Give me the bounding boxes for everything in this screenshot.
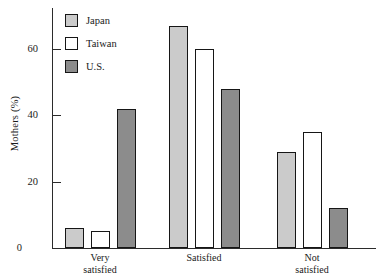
legend: JapanTaiwanU.S. <box>65 10 117 79</box>
y-axis-tick-text: 0 <box>0 243 52 253</box>
y-axis-tick-label: 20 <box>0 177 52 187</box>
bar-taiwan-not-satisfied <box>303 132 322 248</box>
y-axis-tick-label: 60 <box>0 44 52 54</box>
legend-label: Japan <box>86 15 110 26</box>
x-axis-line <box>52 248 376 249</box>
bar-us-not-satisfied <box>329 208 348 248</box>
x-axis-label-2: Not satisfied <box>267 252 357 275</box>
bar-us-satisfied <box>221 89 240 248</box>
y-axis-tick-text: 60 <box>12 44 52 54</box>
y-axis-tick-text: 20 <box>12 177 52 187</box>
legend-swatch-icon <box>65 37 78 50</box>
x-axis-label-0: Very satisfied <box>55 252 145 275</box>
legend-item-japan: Japan <box>65 10 117 30</box>
y-axis-tick-label: 0 <box>0 243 52 253</box>
x-axis-label-1: Satisfied <box>159 252 249 264</box>
bar-japan-satisfied <box>169 26 188 248</box>
legend-label: U.S. <box>86 61 105 72</box>
legend-item-us: U.S. <box>65 56 117 76</box>
bar-taiwan-very-satisfied <box>91 231 110 248</box>
legend-item-taiwan: Taiwan <box>65 33 117 53</box>
bar-us-very-satisfied <box>117 109 136 248</box>
y-axis-tick-label: 40 <box>0 110 52 120</box>
bar-japan-very-satisfied <box>65 228 84 248</box>
legend-swatch-icon <box>65 14 78 27</box>
y-axis-title: Mothers (%) <box>9 74 20 174</box>
bar-taiwan-satisfied <box>195 49 214 248</box>
legend-label: Taiwan <box>86 38 117 49</box>
y-axis-tick-text: 40 <box>12 110 52 120</box>
legend-swatch-icon <box>65 60 78 73</box>
bar-japan-not-satisfied <box>277 152 296 248</box>
bar-chart: Mothers (%) 0204060 Very satisfiedSatisf… <box>0 0 386 280</box>
